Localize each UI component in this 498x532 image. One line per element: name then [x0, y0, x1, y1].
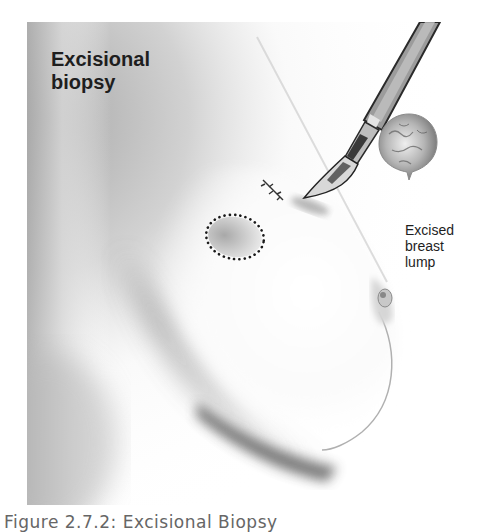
excisional-biopsy-figure: Excisional biopsy Excised breast lump	[27, 22, 471, 505]
figure-title-label: Excisional biopsy	[51, 48, 150, 94]
excised-lump-label: Excised breast lump	[405, 222, 454, 270]
title-line-1: Excisional	[51, 48, 150, 71]
lump-label-line-2: breast	[405, 238, 454, 254]
lump-label-line-1: Excised	[405, 222, 454, 238]
lump-label-line-3: lump	[405, 254, 454, 270]
title-line-2: biopsy	[51, 71, 150, 94]
figure-caption: Figure 2.7.2: Excisional Biopsy	[4, 512, 278, 532]
